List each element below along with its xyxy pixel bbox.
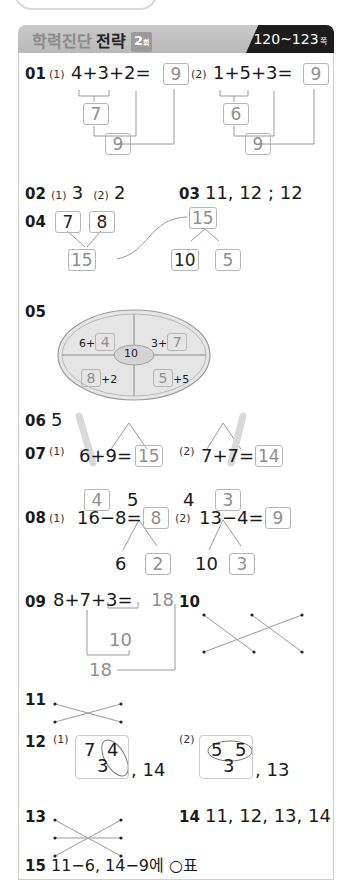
q01-part1-answer: 9 [163, 63, 189, 85]
q04-top: 15 [189, 207, 217, 229]
q04-sum: 15 [68, 249, 96, 271]
q14: 14 11, 12, 13, 14 [179, 805, 331, 826]
q09-partial: 10 [109, 629, 132, 650]
diagram-lines [19, 53, 333, 879]
q07-part2-left: 4 [183, 489, 194, 510]
q08-part1-expr: 16−8= [77, 507, 142, 528]
panel-header: 학력진단전략2회 120~123쪽 [18, 25, 334, 53]
q02: 02 (1) 3 (2) 2 [25, 182, 125, 203]
q05-center: 10 [124, 347, 138, 360]
q05-top-left: 6+4 [79, 333, 115, 351]
q07-part1-label: (1) [49, 445, 65, 458]
q08-part1-left: 6 [115, 553, 126, 574]
q12-part2-label: (2) [179, 733, 195, 746]
q12-part2-a: 5 [211, 739, 222, 760]
q07-part2-label: (2) [179, 445, 195, 458]
page-range: 120~123쪽 [246, 25, 334, 53]
q04-b: 8 [89, 211, 115, 233]
q12-part1-a: 7 [84, 739, 95, 760]
title-light: 학력진단 [32, 32, 92, 51]
q07-part2-expr: 7+7= [201, 445, 254, 466]
q10-number: 10 [179, 593, 200, 611]
q11-number: 11 [25, 691, 46, 709]
q12-part1-b: 4 [107, 739, 118, 760]
q09-expr: 8+7+3= [53, 589, 133, 610]
q01-part2-label: (2) [191, 68, 207, 81]
q01-part2-partial: 6 [223, 103, 249, 125]
q04-number: 04 [25, 213, 46, 231]
q01-part1-total: 9 [105, 133, 131, 155]
q08-part2-answer: 9 [265, 507, 291, 529]
q01-part1-partial: 7 [83, 103, 109, 125]
q01-part2-total: 9 [245, 133, 271, 155]
q08-part1-answer: 8 [143, 507, 169, 529]
q05-top-right: 3+7 [151, 333, 187, 351]
q03: 03 11, 12 ; 12 [179, 182, 303, 203]
q07-part1-answer: 15 [135, 445, 163, 467]
q01-part2-expr: 1+5+3= [213, 62, 293, 83]
q08-number: 08 [25, 509, 46, 527]
q01-number: 01 [25, 65, 46, 83]
q07-part1-expr: 6+9= [79, 445, 132, 466]
q08-part1-right: 2 [145, 553, 171, 575]
q05-bottom-left: 8+2 [81, 369, 117, 387]
q04-split-b: 5 [215, 249, 241, 271]
q12-part2-answer: , 13 [255, 759, 289, 780]
q09-number: 09 [25, 593, 46, 611]
q01-part1-expr: 4+3+2= [71, 62, 151, 83]
q05-number: 05 [25, 303, 46, 321]
q12-part2-b: 5 [235, 739, 246, 760]
q06: 06 5 [25, 409, 62, 430]
q09-answer: 18 [151, 589, 174, 610]
q09-total: 18 [89, 659, 112, 680]
q04-a: 7 [55, 211, 81, 233]
q12-part2-c: 3 [223, 755, 234, 776]
decorative-curve [14, 0, 158, 10]
q13-number: 13 [25, 808, 46, 826]
round-badge: 2회 [131, 32, 152, 52]
q08-part2-expr: 13−4= [199, 507, 264, 528]
q12-part1-label: (1) [53, 733, 69, 746]
q07-number: 07 [25, 445, 46, 463]
q07-part2-answer: 14 [255, 445, 283, 467]
answer-body: 01 (1) 4+3+2= 9 7 9 (2) 1+5+3= 9 6 9 02 … [18, 53, 334, 880]
q01-part2-answer: 9 [303, 63, 329, 85]
q01-part1-label: (1) [49, 68, 65, 81]
q12-number: 12 [25, 733, 46, 751]
q12-part1-c: 3 [97, 755, 108, 776]
answer-panel: 학력진단전략2회 120~123쪽 [18, 25, 334, 883]
q04-split-a: 10 [171, 249, 199, 271]
q08-part2-right: 3 [229, 553, 255, 575]
q08-part2-label: (2) [175, 512, 191, 525]
q12-part1-answer: , 14 [131, 759, 165, 780]
q08-part2-left: 10 [195, 553, 218, 574]
title-bold: 전략 [96, 32, 126, 51]
q08-part1-label: (1) [49, 512, 65, 525]
q15: 15 11−6, 14−9에 ○표 [25, 852, 198, 876]
q05-bottom-right: 5+5 [153, 369, 189, 387]
